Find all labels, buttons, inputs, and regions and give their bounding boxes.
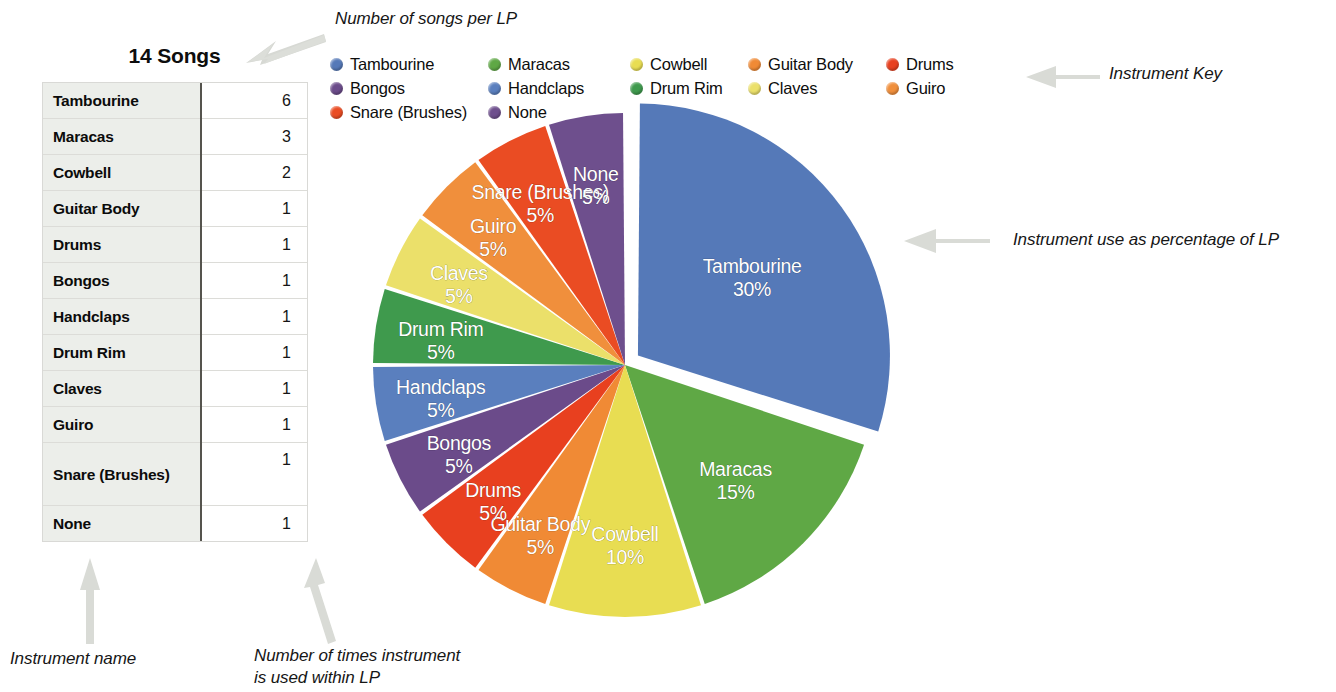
pie-slice-label-percent: 5% xyxy=(427,399,455,421)
instrument-count-cell: 1 xyxy=(201,407,307,443)
annotation-times-used-line1: Number of times instrument xyxy=(254,645,460,667)
instrument-count-cell: 6 xyxy=(201,83,307,119)
table-row: Tambourine 6 xyxy=(43,83,307,119)
instrument-name-cell: Bongos xyxy=(43,263,201,299)
pie-slice-label-percent: 5% xyxy=(427,341,455,363)
pie-slice-label-percent: 5% xyxy=(527,204,555,226)
pie-slice-label-percent: 30% xyxy=(733,278,771,300)
instrument-count-cell: 1 xyxy=(201,263,307,299)
table-row: Drum Rim 1 xyxy=(43,335,307,371)
pie-slice-label-percent: 5% xyxy=(479,238,507,260)
table-row: Drums 1 xyxy=(43,227,307,263)
arrow-to-instrument-name xyxy=(76,556,106,646)
instrument-table: Tambourine 6 Maracas 3 Cowbell 2 Guitar … xyxy=(43,83,307,541)
pie-slice-label-percent: 5% xyxy=(527,536,555,558)
legend-swatch-icon xyxy=(330,58,343,71)
table-row: Bongos 1 xyxy=(43,263,307,299)
songs-count-title: 14 Songs xyxy=(42,44,307,68)
table-row: Handclaps 1 xyxy=(43,299,307,335)
pie-slice-label-name: Bongos xyxy=(427,432,492,454)
annotation-instrument-name: Instrument name xyxy=(10,648,136,670)
instrument-name-cell: Claves xyxy=(43,371,201,407)
legend-swatch-icon xyxy=(748,82,761,95)
legend-label: Cowbell xyxy=(650,55,707,74)
instrument-count-cell: 1 xyxy=(201,371,307,407)
legend-swatch-icon xyxy=(748,58,761,71)
legend-item-tambourine[interactable]: Tambourine xyxy=(330,52,488,76)
legend-swatch-icon xyxy=(488,58,501,71)
legend-item-cowbell[interactable]: Cowbell xyxy=(630,52,748,76)
instrument-name-cell: Tambourine xyxy=(43,83,201,119)
pie-chart-svg: Tambourine30%Maracas15%Cowbell10%Guitar … xyxy=(355,95,915,640)
legend-swatch-icon xyxy=(488,82,501,95)
pie-slice-label-percent: 15% xyxy=(716,481,754,503)
pie-slice-label-name: Maracas xyxy=(699,458,772,480)
table-row: Maracas 3 xyxy=(43,119,307,155)
legend-swatch-icon xyxy=(330,106,343,119)
arrow-to-instrument-count xyxy=(300,556,346,646)
legend-item-drums[interactable]: Drums xyxy=(886,52,954,76)
instrument-count-cell: 2 xyxy=(201,155,307,191)
arrow-to-pie-slice xyxy=(900,226,992,256)
pie-chart: Tambourine30%Maracas15%Cowbell10%Guitar … xyxy=(355,95,915,640)
instrument-name-cell: Guitar Body xyxy=(43,191,201,227)
instrument-name-cell: Maracas xyxy=(43,119,201,155)
annotation-times-used-line2: is used within LP xyxy=(254,667,380,689)
legend-swatch-icon xyxy=(886,58,899,71)
pie-slice-label-percent: 10% xyxy=(606,546,644,568)
legend-label: Drums xyxy=(906,55,954,74)
instrument-name-cell: Guiro xyxy=(43,407,201,443)
pie-slice-label-percent: 5% xyxy=(445,285,473,307)
instrument-name-cell: Drum Rim xyxy=(43,335,201,371)
legend-swatch-icon xyxy=(630,82,643,95)
instrument-count-cell: 1 xyxy=(201,443,307,506)
legend-swatch-icon xyxy=(630,58,643,71)
instrument-count-cell: 1 xyxy=(201,227,307,263)
arrow-to-legend xyxy=(1022,62,1102,92)
instrument-count-cell: 3 xyxy=(201,119,307,155)
instrument-name-cell: Handclaps xyxy=(43,299,201,335)
legend-swatch-icon xyxy=(330,82,343,95)
pie-slice-label-name: Handclaps xyxy=(396,376,486,398)
table-row: Guitar Body 1 xyxy=(43,191,307,227)
pie-slice-label-name: None xyxy=(573,163,618,185)
instrument-name-cell: Snare (Brushes) xyxy=(43,443,201,506)
table-row: None 1 xyxy=(43,506,307,542)
annotation-instrument-key: Instrument Key xyxy=(1109,63,1222,85)
pie-slice-label-percent: 5% xyxy=(479,502,507,524)
legend-item-guitar-body[interactable]: Guitar Body xyxy=(748,52,886,76)
pie-slice-label-name: Claves xyxy=(430,262,488,284)
pie-slice-label-name: Drums xyxy=(465,479,521,501)
instrument-count-cell: 1 xyxy=(201,299,307,335)
legend-swatch-icon xyxy=(886,82,899,95)
table-row: Claves 1 xyxy=(43,371,307,407)
instrument-name-cell: Drums xyxy=(43,227,201,263)
table-row: Cowbell 2 xyxy=(43,155,307,191)
legend-label: Maracas xyxy=(508,55,570,74)
instrument-count-cell: 1 xyxy=(201,506,307,542)
annotation-songs-per-lp: Number of songs per LP xyxy=(335,8,517,30)
table-row: Snare (Brushes) 1 xyxy=(43,443,307,506)
pie-slice-label-name: Drum Rim xyxy=(398,318,483,340)
pie-slice-label-percent: 5% xyxy=(582,186,610,208)
legend-label: Guitar Body xyxy=(768,55,853,74)
instrument-count-cell: 1 xyxy=(201,335,307,371)
pie-slice-label-name: Guiro xyxy=(470,215,517,237)
annotation-instrument-percentage: Instrument use as percentage of LP xyxy=(1013,229,1279,251)
legend-label: Tambourine xyxy=(350,55,434,74)
instrument-name-cell: Cowbell xyxy=(43,155,201,191)
pie-slice-label-name: Tambourine xyxy=(703,255,802,277)
instrument-name-cell: None xyxy=(43,506,201,542)
table-row: Guiro 1 xyxy=(43,407,307,443)
pie-slice-label-percent: 5% xyxy=(445,455,473,477)
instrument-table-body: Tambourine 6 Maracas 3 Cowbell 2 Guitar … xyxy=(43,83,307,541)
instrument-count-cell: 1 xyxy=(201,191,307,227)
legend-item-maracas[interactable]: Maracas xyxy=(488,52,630,76)
pie-slice-label-name: Cowbell xyxy=(591,523,658,545)
